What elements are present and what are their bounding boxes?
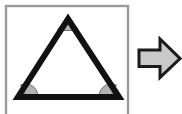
diagram-canvas: Triangle with marked interior angles and… [0,0,182,114]
diagram-svg [0,0,182,114]
